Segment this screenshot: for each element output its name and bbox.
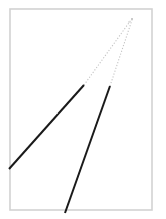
- vanishing-point-diagram: [0, 0, 166, 219]
- faint-speck-center: [56, 112, 58, 114]
- faint-speck-apex: [128, 21, 130, 23]
- vanishing-point-marker: [131, 18, 133, 20]
- panel-border: [10, 9, 152, 210]
- figure-container: [0, 0, 166, 219]
